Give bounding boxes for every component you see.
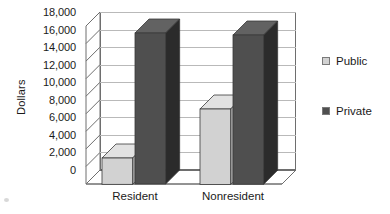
y-tick-label: 18,000 [43,6,76,18]
y-tick-label: 12,000 [43,59,76,71]
bar-3d-faces [135,19,182,186]
bar-public-nonresident [200,109,231,184]
y-tick-label: 6,000 [49,111,76,123]
bar-private-nonresident [233,35,264,184]
legend-swatch-private [322,107,330,115]
bar-side-face [166,19,180,184]
y-tick-mark [86,30,100,44]
bar-front-face [233,35,264,184]
y-tick-label: 0 [70,164,76,176]
y-tick-label: 14,000 [43,41,76,53]
y-tick-mark [86,65,100,79]
bar-side-face [264,21,278,184]
y-tick-mark [86,135,100,149]
page-speck [4,198,9,202]
y-tick-label: 4,000 [49,129,76,141]
legend-item-private: Private [322,105,372,117]
legend-label-private: Private [336,105,372,117]
y-tick-mark [86,152,100,166]
legend-label-public: Public [336,55,367,67]
y-tick-mark [86,47,100,61]
y-axis-tick-labels: 02,0004,0006,0008,00010,00012,00014,0001… [30,0,80,214]
y-tick-label: 8,000 [49,94,76,106]
bar-public-resident [102,158,133,184]
y-tick-mark [86,12,100,26]
y-tick-mark [86,117,100,131]
y-tick-mark [86,170,100,184]
x-axis-label-resident: Resident [86,190,184,202]
bar-chart: Dollars 02,0004,0006,0008,00010,00012,00… [0,0,390,214]
gridline [100,12,296,13]
y-tick-mark [86,82,100,96]
y-axis-title: Dollars [14,58,28,136]
legend-swatch-public [322,57,330,65]
legend: Public Private [322,55,372,155]
legend-item-public: Public [322,55,372,67]
y-tick-label: 16,000 [43,24,76,36]
y-tick-label: 2,000 [49,146,76,158]
y-tick-mark [86,100,100,114]
bar-private-resident [135,33,166,184]
bar-front-face [135,33,166,184]
y-tick-label: 10,000 [43,76,76,88]
bar-3d-faces [233,21,280,186]
bar-front-face [200,109,231,184]
x-axis-label-nonresident: Nonresident [184,190,282,202]
bar-front-face [102,158,133,184]
